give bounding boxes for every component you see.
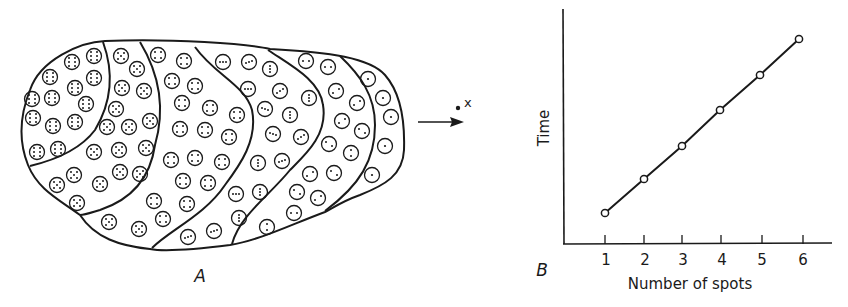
cell-4-spots	[222, 130, 237, 145]
cell-4-spots	[175, 96, 190, 111]
cell-3-spots	[253, 185, 268, 200]
cell-5-spots	[132, 222, 147, 237]
cell-5-spots	[113, 165, 128, 180]
x-tick-label: 1	[601, 251, 611, 269]
cell-4-spots	[230, 108, 245, 123]
data-point-6	[795, 35, 802, 42]
zone-6-cells	[25, 49, 102, 160]
cell-4-spots	[198, 123, 213, 138]
cell-4-spots	[176, 174, 191, 189]
cell-5-spots	[112, 143, 127, 158]
cell-2-spots	[327, 166, 342, 181]
cell-3-spots	[229, 187, 244, 202]
y-axis-title: Time	[535, 110, 553, 148]
cell-6-spots	[79, 97, 94, 112]
cell-4-spots	[156, 212, 171, 227]
cell-5-spots	[100, 120, 115, 135]
data-line	[605, 39, 799, 213]
cell-5-spots	[122, 120, 137, 135]
cell-6-spots	[45, 91, 60, 106]
cell-2-spots	[260, 220, 275, 235]
data-point-5	[756, 71, 763, 78]
x-axis	[563, 243, 832, 244]
cell-1-spot	[378, 139, 393, 154]
panel-a-tissue-diagram	[22, 40, 405, 250]
zone-4-cells	[147, 48, 245, 227]
cell-6-spots	[46, 119, 61, 134]
cell-5-spots	[70, 196, 85, 211]
cell-6-spots	[65, 55, 80, 70]
cell-2-spots	[355, 124, 370, 139]
cell-2-spots	[322, 137, 337, 152]
cell-2-spots	[287, 206, 302, 221]
cell-6-spots	[68, 81, 83, 96]
cell-2-spots	[344, 146, 359, 161]
cell-3-spots	[241, 82, 256, 97]
cell-3-spots	[242, 55, 257, 70]
data-point-3	[678, 142, 685, 149]
panel-a-label: A	[193, 266, 206, 286]
cell-4-spots	[215, 155, 230, 170]
cell-5-spots	[87, 145, 102, 160]
y-axis	[563, 9, 564, 244]
panel-b-chart: 1 2 3 4 5 6 Number of spots Time B	[535, 9, 832, 293]
cell-2-spots	[321, 60, 336, 75]
cell-3-spots	[181, 230, 196, 245]
cell-1-spot	[376, 91, 391, 106]
cell-4-spots	[188, 79, 203, 94]
zone-boundary-4-3	[152, 47, 253, 248]
cell-5-spots	[67, 168, 82, 183]
cell-4-spots	[177, 54, 192, 69]
cell-6-spots	[26, 111, 41, 126]
cell-4-spots	[147, 194, 162, 209]
cell-2-spots	[311, 191, 326, 206]
cell-6-spots	[87, 49, 102, 64]
cell-3-spots	[273, 84, 288, 99]
cell-6-spots	[68, 115, 83, 130]
cell-5-spots	[130, 62, 145, 77]
cell-5-spots	[93, 177, 108, 192]
cell-4-spots	[201, 176, 216, 191]
cell-5-spots	[139, 141, 154, 156]
cell-3-spots	[216, 55, 231, 70]
cell-2-spots	[299, 54, 314, 69]
cell-5-spots	[109, 102, 124, 117]
cell-6-spots	[51, 142, 66, 157]
data-point-4	[716, 106, 723, 113]
cell-3-spots	[232, 211, 247, 226]
cell-5-spots	[114, 49, 129, 64]
x-tick-label: 2	[640, 251, 650, 269]
cell-4-spots	[151, 48, 166, 63]
panel-b-label: B	[536, 260, 548, 280]
cell-4-spots	[203, 101, 218, 116]
cell-1-spot	[361, 72, 376, 87]
cell-2-spots	[290, 185, 305, 200]
arrow-head-icon	[450, 117, 464, 127]
cell-3-spots	[258, 102, 273, 117]
cell-4-spots	[165, 74, 180, 89]
cell-5-spots	[143, 114, 158, 129]
cell-3-spots	[251, 156, 266, 171]
cell-2-spots	[350, 96, 365, 111]
cell-3-spots	[266, 127, 281, 142]
point-x-marker	[456, 106, 460, 110]
cell-6-spots	[43, 70, 58, 85]
cell-3-spots	[294, 130, 309, 145]
x-axis-title: Number of spots	[628, 275, 753, 293]
x-tick-label: 3	[678, 251, 688, 269]
cell-2-spots	[329, 84, 344, 99]
data-point-2	[640, 175, 647, 182]
cell-4-spots	[188, 151, 203, 166]
cell-2-spots	[335, 114, 350, 129]
cell-6-spots	[87, 71, 102, 86]
cell-3-spots	[302, 91, 317, 106]
point-x-label: x	[464, 95, 472, 110]
figure: A x 1 2 3 4 5 6 Number of spots	[0, 0, 848, 307]
x-tick-label: 4	[717, 251, 727, 269]
cell-3-spots	[275, 154, 290, 169]
cell-1-spot	[365, 168, 380, 183]
arrow-to-x	[418, 117, 464, 127]
x-tick-label: 6	[798, 251, 808, 269]
cell-4-spots	[180, 197, 195, 212]
cell-3-spots	[207, 224, 222, 239]
